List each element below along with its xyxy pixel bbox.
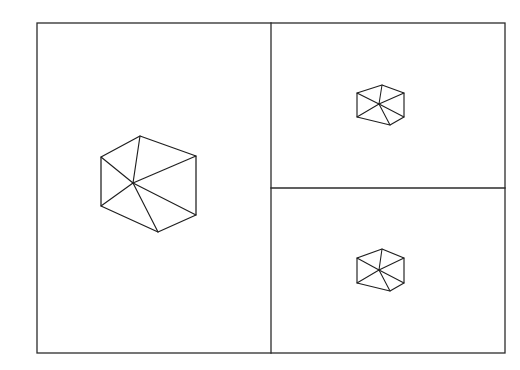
panel-left: [37, 23, 271, 353]
figure-root: [0, 0, 520, 370]
panel-bottom-right: [271, 188, 505, 353]
panel-top-right: [271, 23, 505, 188]
